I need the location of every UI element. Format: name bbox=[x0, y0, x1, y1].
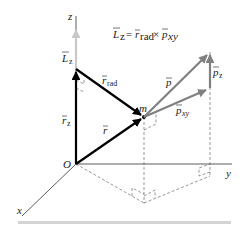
svg-text:rad: rad bbox=[107, 79, 117, 88]
label-p-xy: p xy bbox=[175, 104, 190, 118]
vector-r-rad bbox=[76, 69, 141, 115]
y-axis-label: y bbox=[225, 167, 231, 179]
svg-text:xy: xy bbox=[181, 109, 190, 118]
particle-label: m bbox=[139, 102, 147, 114]
svg-text:p: p bbox=[212, 66, 219, 78]
origin-label: O bbox=[63, 158, 71, 170]
svg-text:p: p bbox=[161, 28, 168, 40]
svg-text:=: = bbox=[126, 28, 132, 40]
label-p: p bbox=[165, 76, 172, 88]
projection-lines bbox=[76, 52, 210, 203]
vector-p-xy bbox=[144, 90, 206, 117]
svg-text:p: p bbox=[175, 104, 182, 116]
z-axis-label: z bbox=[67, 10, 73, 22]
svg-text:L: L bbox=[112, 28, 119, 40]
label-r-rad: r rad bbox=[102, 74, 117, 88]
svg-text:z: z bbox=[120, 30, 125, 42]
angular-momentum-diagram: z y x O m L z r z r rad r p p xy p z bbox=[0, 0, 245, 234]
svg-text:×: × bbox=[153, 28, 159, 40]
equation: L z = r rad × p xy bbox=[112, 28, 178, 42]
x-axis-label: x bbox=[16, 204, 22, 216]
vector-r bbox=[76, 119, 141, 164]
label-r: r bbox=[103, 124, 108, 136]
label-r-z: r z bbox=[62, 114, 71, 128]
svg-text:z: z bbox=[69, 57, 73, 66]
label-p-z: p z bbox=[212, 66, 223, 80]
footer-bar bbox=[18, 221, 231, 224]
label-L-z: L z bbox=[61, 52, 73, 66]
svg-text:L: L bbox=[61, 52, 68, 64]
x-axis bbox=[22, 164, 76, 216]
axes bbox=[22, 16, 232, 216]
svg-text:xy: xy bbox=[167, 30, 178, 42]
svg-text:z: z bbox=[219, 71, 223, 80]
svg-text:z: z bbox=[67, 119, 71, 128]
